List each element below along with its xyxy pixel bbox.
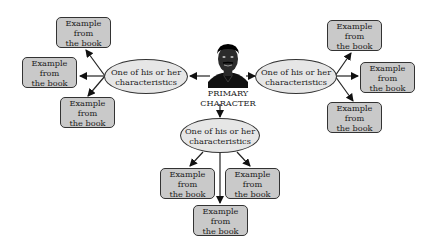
primary-character-label: PRIMARY CHARACTER <box>188 88 268 108</box>
example-box-right-bottom: Example fromthe book <box>327 102 382 133</box>
example-box-right-middle: Example fromthe book <box>360 62 415 93</box>
example-text: the book <box>330 41 379 51</box>
example-text: the book <box>63 118 112 128</box>
example-text: Example from <box>330 21 379 41</box>
characteristic-ellipse-left: One of his or hercharacteristics <box>104 59 188 94</box>
characteristic-text: characteristics <box>261 77 331 87</box>
example-text: the book <box>363 83 412 93</box>
example-text: Example from <box>330 103 379 123</box>
example-text: Example from <box>163 169 212 189</box>
characteristic-ellipse-right: One of his or hercharacteristics <box>255 59 337 94</box>
characteristic-text: characteristics <box>111 77 181 87</box>
person-portrait-icon <box>206 40 250 88</box>
example-text: the book <box>330 123 379 133</box>
example-box-left-top: Example fromthe book <box>56 17 111 48</box>
characteristic-text: One of his or her <box>185 126 255 136</box>
center-label-line1: PRIMARY <box>188 88 268 98</box>
characteristic-text: One of his or her <box>261 67 331 77</box>
characteristic-text: characteristics <box>185 136 255 146</box>
example-box-bottom-left: Example fromthe book <box>160 168 215 199</box>
example-text: Example from <box>63 98 112 118</box>
example-text: Example from <box>196 206 245 226</box>
characteristic-ellipse-bottom: One of his or hercharacteristics <box>180 118 260 153</box>
example-box-left-bottom: Example fromthe book <box>60 97 115 128</box>
character-web-diagram: PRIMARY CHARACTER One of his or herchara… <box>0 0 436 248</box>
center-label-line2: CHARACTER <box>188 98 268 108</box>
example-box-bottom-right: Example fromthe book <box>225 168 280 199</box>
example-text: the book <box>228 189 277 199</box>
example-box-bottom-center: Example fromthe book <box>193 205 248 236</box>
example-text: Example from <box>363 63 412 83</box>
example-text: the book <box>59 38 108 48</box>
example-text: Example from <box>59 18 108 38</box>
characteristic-text: One of his or her <box>111 67 181 77</box>
example-text: the book <box>163 189 212 199</box>
example-text: Example from <box>25 58 74 78</box>
example-text: Example from <box>228 169 277 189</box>
example-box-left-middle: Example fromthe book <box>22 57 77 88</box>
example-box-right-top: Example fromthe book <box>327 20 382 51</box>
example-text: the book <box>196 226 245 236</box>
example-text: the book <box>25 78 74 88</box>
